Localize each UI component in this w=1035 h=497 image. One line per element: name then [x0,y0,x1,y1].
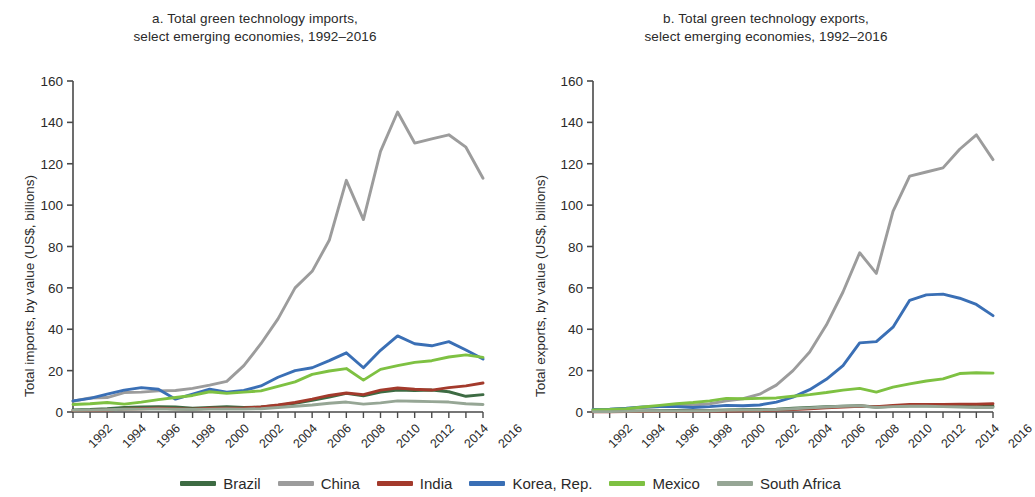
y-tick-label: 120 [549,158,583,172]
y-tick-label: 60 [29,282,63,296]
panel-a-title-line1: a. Total green technology imports, [0,10,510,28]
y-tick-label: 160 [549,75,583,89]
x-tick-label: 2002 [773,422,802,451]
legend-swatch-icon [180,481,216,486]
panel-b-title-line2: select emerging economies, 1992–2016 [511,28,1021,46]
plot-svg [73,81,483,412]
legend-item-korea-rep[interactable]: Korea, Rep. [469,475,592,492]
panel-b-title-line1: b. Total green technology exports, [511,10,1021,28]
y-tick-label: 140 [29,116,63,130]
x-tick-label: 2010 [906,422,935,451]
x-tick-label: 2008 [873,422,902,451]
y-tick-label: 140 [549,116,583,130]
panel-a-title-line2: select emerging economies, 1992–2016 [0,28,510,46]
legend-item-mexico[interactable]: Mexico [609,475,700,492]
legend-swatch-icon [278,481,314,486]
panel-b-y-axis-title: Total exports, by value (US$, billions) [533,175,548,397]
x-tick-label: 1992 [606,422,635,451]
y-tick-label: 160 [29,75,63,89]
x-tick-label: 2004 [291,422,320,451]
axis-spines [593,81,993,412]
legend-swatch-icon [377,481,413,486]
series-line-china [593,135,993,410]
y-tick-label: 120 [29,158,63,172]
chart-panel-a: a. Total green technology imports, selec… [0,0,510,470]
x-tick-label: 2012 [939,422,968,451]
x-tick-label: 1994 [639,422,668,451]
y-tick-label: 20 [549,365,583,379]
x-tick-label: 1998 [189,422,218,451]
x-tick-label: 1992 [86,422,115,451]
y-tick-label: 40 [29,323,63,337]
y-tick-label: 40 [549,323,583,337]
x-tick-label: 2008 [359,422,388,451]
x-tick-label: 1996 [673,422,702,451]
x-tick-label: 2000 [739,422,768,451]
legend-swatch-icon [469,481,505,486]
series-line-china [73,112,483,401]
y-tick-label: 100 [549,199,583,213]
legend-label: South Africa [760,475,841,492]
x-tick-label: 2004 [806,422,835,451]
x-tick-label: 1998 [706,422,735,451]
y-tick-label: 0 [549,406,583,420]
chart-panel-b: b. Total green technology exports, selec… [511,0,1021,470]
x-tick-label: 2000 [223,422,252,451]
panel-b-plot-area: 0204060801001201401601992199419961998200… [593,81,993,412]
plot-svg [593,81,993,412]
series-line-korea-rep [593,294,993,409]
legend-label: India [420,475,453,492]
panel-a-title: a. Total green technology imports, selec… [0,10,510,46]
x-tick-label: 2012 [428,422,457,451]
legend-label: China [321,475,360,492]
x-tick-label: 2006 [325,422,354,451]
x-tick-label: 2016 [1006,422,1035,451]
panel-a-plot-area: 0204060801001201401601992199419961998200… [73,81,483,412]
chart-legend: BrazilChinaIndiaKorea, Rep.MexicoSouth A… [0,470,1021,497]
y-tick-label: 80 [29,241,63,255]
x-tick-label: 2014 [462,422,491,451]
x-tick-label: 2014 [973,422,1002,451]
x-tick-label: 2010 [394,422,423,451]
panel-b-title: b. Total green technology exports, selec… [511,10,1021,46]
legend-item-south-africa[interactable]: South Africa [717,475,841,492]
x-tick-label: 2002 [257,422,286,451]
x-tick-label: 2006 [839,422,868,451]
x-tick-label: 1994 [120,422,149,451]
legend-item-india[interactable]: India [377,475,453,492]
legend-label: Korea, Rep. [512,475,592,492]
legend-swatch-icon [609,481,645,486]
y-tick-label: 80 [549,241,583,255]
x-tick-label: 1996 [154,422,183,451]
legend-label: Mexico [652,475,700,492]
y-tick-label: 60 [549,282,583,296]
legend-item-china[interactable]: China [278,475,360,492]
y-tick-label: 100 [29,199,63,213]
legend-swatch-icon [717,481,753,486]
legend-label: Brazil [223,475,261,492]
legend-item-brazil[interactable]: Brazil [180,475,261,492]
y-tick-label: 20 [29,365,63,379]
series-line-mexico [73,355,483,405]
y-tick-label: 0 [29,406,63,420]
